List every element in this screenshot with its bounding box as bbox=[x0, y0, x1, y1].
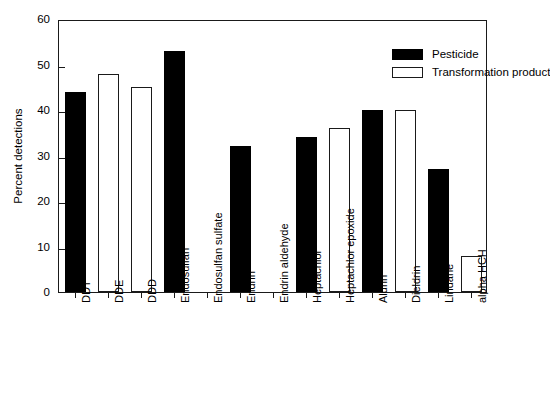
y-axis-tick-mark bbox=[59, 203, 65, 204]
y-axis-tick-label: 40 bbox=[0, 105, 50, 117]
bar-aldrin bbox=[362, 110, 384, 292]
legend-item-pesticide: Pesticide bbox=[392, 47, 550, 62]
x-axis-tick-mark bbox=[75, 293, 76, 298]
y-axis-tick-label: 20 bbox=[0, 196, 50, 208]
x-axis-label-ddd: DDD bbox=[146, 279, 158, 303]
x-axis-label-dde: DDE bbox=[113, 280, 125, 303]
legend-swatch-pesticide bbox=[392, 49, 423, 60]
y-axis-tick-mark bbox=[59, 67, 65, 68]
x-axis-tick-mark bbox=[438, 293, 439, 298]
bar-ddd bbox=[131, 87, 153, 292]
x-axis-label-ddt: DDT bbox=[80, 280, 92, 303]
x-axis-label-endrin-aldehyde: Endrin aldehyde bbox=[278, 223, 290, 303]
x-axis-tick-mark bbox=[108, 293, 109, 298]
bar-endrin bbox=[230, 146, 252, 292]
bar-ddt bbox=[65, 92, 87, 292]
y-axis-tick-label: 10 bbox=[0, 242, 50, 254]
bar-dde bbox=[98, 74, 120, 292]
x-axis-tick-mark bbox=[471, 293, 472, 298]
x-axis-label-alpha-hch: alpha HCH bbox=[476, 249, 488, 303]
bar-dieldrin bbox=[395, 110, 417, 292]
x-axis-label-endosulfan: Endosulfan bbox=[179, 248, 191, 303]
x-axis-label-dieldrin: Dieldrin bbox=[410, 266, 422, 303]
legend-item-transformation-product: Transformation product bbox=[392, 65, 550, 80]
x-axis-label-heptachlor-epoxide: Heptachlor epoxide bbox=[344, 208, 356, 303]
x-axis-tick-mark bbox=[240, 293, 241, 298]
x-axis-tick-mark bbox=[339, 293, 340, 298]
y-axis-tick-label: 60 bbox=[0, 14, 50, 26]
x-axis-label-endrin: Endrin bbox=[245, 271, 257, 303]
legend-label-pesticide: Pesticide bbox=[432, 49, 479, 61]
y-axis-tick-label: 0 bbox=[0, 287, 50, 299]
x-axis-tick-mark bbox=[405, 293, 406, 298]
x-axis-tick-mark bbox=[273, 293, 274, 298]
chart-legend: Pesticide Transformation product bbox=[392, 47, 550, 83]
x-axis-label-endosulfan-sulfate: Endosulfan sulfate bbox=[212, 212, 224, 303]
x-axis-tick-mark bbox=[372, 293, 373, 298]
plot-area: Pesticide Transformation product bbox=[58, 20, 487, 293]
x-axis-label-aldrin: Aldrin bbox=[377, 275, 389, 303]
x-axis-tick-mark bbox=[207, 293, 208, 298]
x-axis-tick-mark bbox=[141, 293, 142, 298]
y-axis-tick-label: 30 bbox=[0, 151, 50, 163]
y-axis-tick-mark bbox=[59, 112, 65, 113]
x-axis-label-lindane: Lindane bbox=[443, 264, 455, 303]
x-axis-label-heptachlor: Heptachlor bbox=[311, 250, 323, 303]
y-axis-tick-mark bbox=[59, 249, 65, 250]
x-axis-tick-mark bbox=[306, 293, 307, 298]
x-axis-tick-mark bbox=[174, 293, 175, 298]
y-axis-tick-label: 50 bbox=[0, 60, 50, 72]
y-axis-tick-mark bbox=[59, 158, 65, 159]
legend-swatch-transformation-product bbox=[392, 67, 423, 78]
legend-label-transformation-product: Transformation product bbox=[432, 67, 550, 79]
